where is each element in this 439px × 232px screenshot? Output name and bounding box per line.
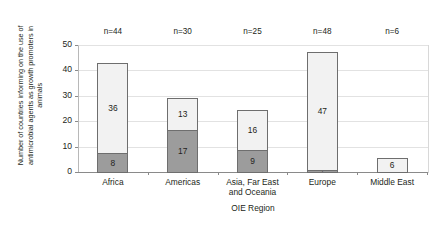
- bar-segment-value: 47: [318, 107, 327, 116]
- n-label: n=44: [83, 27, 143, 36]
- bar-segment-lower[interactable]: 9: [237, 150, 268, 173]
- bar-segment-upper[interactable]: 13: [167, 98, 198, 131]
- n-label: n=25: [223, 27, 283, 36]
- x-tick-mark: [357, 172, 358, 175]
- n-label: n=6: [362, 27, 422, 36]
- bar-segment-value: 6: [390, 161, 395, 170]
- bar-segment-value: 8: [111, 159, 116, 168]
- y-tick-label-20: 20: [50, 116, 72, 125]
- y-tick-label-50: 50: [50, 40, 72, 49]
- bar-segment-value: 36: [108, 104, 117, 113]
- x-tick-mark: [427, 172, 428, 175]
- y-tick-label-0: 0: [50, 167, 72, 176]
- y-axis-title-line-1: Number of countries informing on the use…: [16, 25, 26, 165]
- x-tick-mark: [218, 172, 219, 175]
- y-tick-label-30: 30: [50, 91, 72, 100]
- bar-segment-value: 13: [178, 110, 187, 119]
- y-axis-title-line-2: antimicrobial agents as growth promoters…: [25, 25, 35, 165]
- bar-segment-value: 9: [250, 157, 255, 166]
- bar-group[interactable]: 147: [307, 45, 338, 172]
- x-tick-mark: [287, 172, 288, 175]
- bar-group[interactable]: 916: [237, 45, 268, 172]
- bar-group[interactable]: 1713: [167, 45, 198, 172]
- x-tick-label-middle-east: Middle East: [350, 177, 434, 187]
- bar-segment-upper[interactable]: 6: [377, 158, 408, 173]
- bar-group[interactable]: 6: [377, 45, 408, 172]
- y-axis-title-line-3: animals: [35, 25, 45, 165]
- bar-segment-value: 17: [178, 147, 187, 156]
- n-label: n=48: [292, 27, 352, 36]
- y-tick-label-10: 10: [50, 142, 72, 151]
- bars-layer: 83617139161476: [78, 45, 428, 172]
- bar-stack: 6: [377, 158, 408, 172]
- stacked-bar-chart: Number of countries informing on the use…: [0, 0, 439, 232]
- bar-segment-value: 16: [248, 126, 257, 135]
- x-tick-mark: [148, 172, 149, 175]
- y-tick-label-40: 40: [50, 65, 72, 74]
- bar-segment-upper[interactable]: 36: [97, 63, 128, 154]
- bar-segment-upper[interactable]: 47: [307, 52, 338, 171]
- bar-stack: 916: [237, 110, 268, 172]
- bar-segment-lower[interactable]: 8: [97, 153, 128, 173]
- bar-segment-upper[interactable]: 16: [237, 110, 268, 151]
- bar-segment-lower[interactable]: 17: [167, 130, 198, 173]
- bar-stack: 1713: [167, 98, 198, 172]
- x-axis-title: OIE Region: [78, 203, 428, 213]
- y-tick-mark-0: [75, 172, 78, 173]
- bar-stack: 147: [307, 52, 338, 172]
- n-label: n=30: [153, 27, 213, 36]
- bar-stack: 836: [97, 63, 128, 172]
- bar-group[interactable]: 836: [97, 45, 128, 172]
